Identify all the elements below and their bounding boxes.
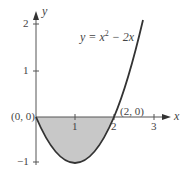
y-tick-2: 2 — [23, 17, 29, 29]
x-axis-arrow-icon — [162, 114, 171, 120]
x-axis-label: x — [174, 109, 179, 124]
x-tick-2: 2 — [111, 120, 117, 132]
equation-label: y = x2 − 2x — [80, 29, 134, 45]
point-label: (2, 0) — [120, 105, 144, 117]
origin-label: (0, 0) — [11, 110, 35, 122]
y-tick-neg1: −1 — [17, 155, 29, 167]
y-axis-arrow-icon — [33, 11, 39, 20]
x-tick-3: 3 — [151, 120, 157, 132]
y-tick-1: 1 — [23, 64, 29, 76]
x-tick-1: 1 — [72, 120, 78, 132]
chart: y x y = x2 − 2x (0, 0) (2, 0) 1 2 3 2 1 … — [0, 0, 185, 173]
y-axis-label: y — [42, 4, 47, 19]
